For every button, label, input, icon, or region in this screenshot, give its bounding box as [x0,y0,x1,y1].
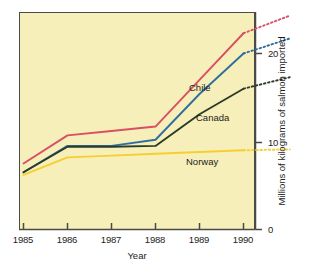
data-series-group [24,16,290,175]
x-axis [19,223,256,230]
x-tick-label-1985: 1985 [13,234,33,245]
x-tick-label-1987: 1987 [101,234,121,245]
series-label-canada: Canada [196,112,229,123]
series-label-chile: Chile [189,82,211,93]
y-tick-label-0: 0 [268,224,273,235]
series-projection-chile [244,16,290,34]
chart-canvas [0,0,311,272]
x-tick-label-1989: 1989 [189,234,209,245]
y-axis-title: Millions of kilograms of salmon imported [276,37,287,206]
chart-figure: 1985 1986 1987 1988 1989 1990 0 10 20 Ye… [0,0,311,272]
x-tick-label-1988: 1988 [145,234,165,245]
y-axis [256,12,263,230]
series-line-chile [24,33,244,163]
x-axis-title: Year [127,250,146,261]
x-tick-label-1990: 1990 [233,234,253,245]
x-tick-label-1986: 1986 [57,234,77,245]
series-label-norway: Norway [186,156,218,167]
